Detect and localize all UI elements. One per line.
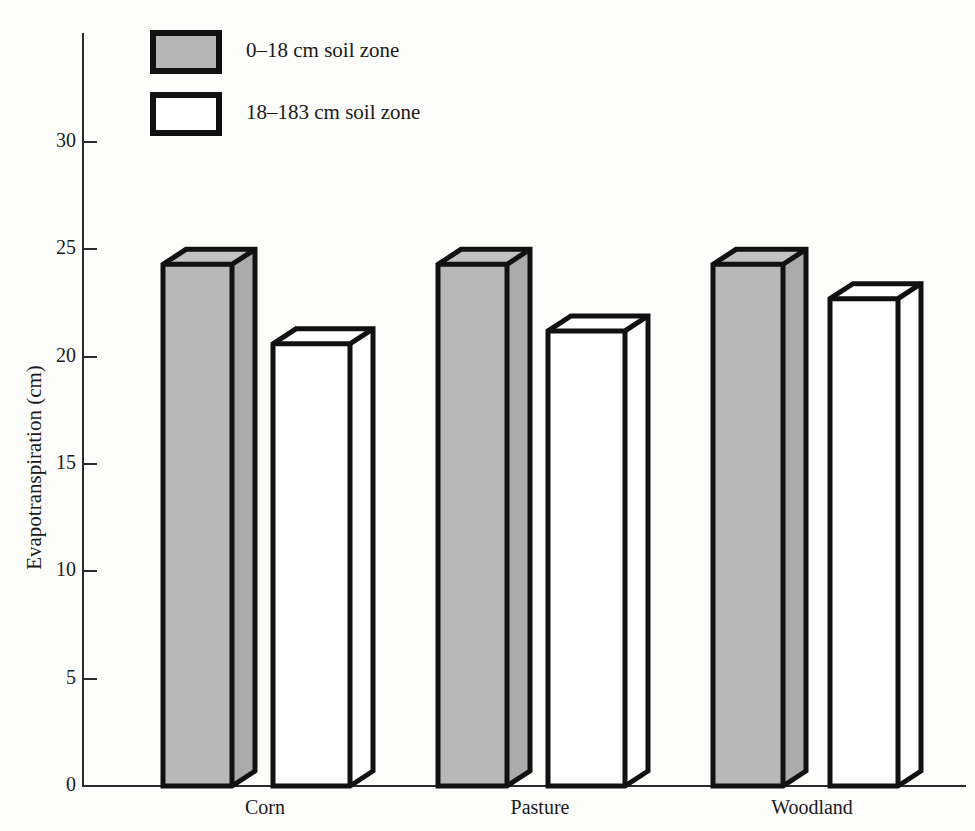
legend-swatch-white xyxy=(150,92,222,136)
bar-corn-zone-0-18[interactable] xyxy=(163,249,255,786)
y-tick-label-5: 5 xyxy=(26,667,76,687)
y-tick-label-text: 30 xyxy=(36,130,76,150)
y-tick-mark-5 xyxy=(84,678,97,680)
y-tick-label-text: 0 xyxy=(36,774,76,794)
y-tick-mark-20 xyxy=(84,356,97,358)
x-category-label-corn: Corn xyxy=(175,796,355,819)
bars-layer xyxy=(0,0,975,831)
bar-pasture-zone-0-18[interactable] xyxy=(438,249,530,786)
y-tick-mark-30 xyxy=(84,141,97,143)
y-tick-label-0: 0 xyxy=(26,774,76,794)
y-axis-line xyxy=(82,33,84,787)
bar-corn-zone-18-183[interactable] xyxy=(273,329,373,786)
y-tick-label-text: 10 xyxy=(36,559,76,579)
y-tick-label-text: 5 xyxy=(36,667,76,687)
y-tick-mark-0 xyxy=(84,785,97,787)
y-tick-mark-10 xyxy=(84,570,97,572)
y-tick-label-text: 15 xyxy=(36,452,76,472)
y-tick-label-25: 25 xyxy=(26,237,76,257)
y-tick-label-20: 20 xyxy=(26,345,76,365)
y-tick-label-30: 30 xyxy=(26,130,76,150)
evapotranspiration-bar-chart: 0–18 cm soil zone 18–183 cm soil zone Ev… xyxy=(0,0,975,831)
y-tick-mark-25 xyxy=(84,248,97,250)
bar-pasture-zone-18-183[interactable] xyxy=(548,316,648,786)
legend-swatch-gray xyxy=(150,30,222,74)
y-tick-label-text: 25 xyxy=(36,237,76,257)
legend-label-18-183: 18–183 cm soil zone xyxy=(246,100,420,125)
y-tick-label-text: 20 xyxy=(36,345,76,365)
y-tick-label-15: 15 xyxy=(26,452,76,472)
bar-woodland-zone-0-18[interactable] xyxy=(713,249,806,786)
x-category-label-pasture: Pasture xyxy=(450,796,630,819)
y-tick-mark-15 xyxy=(84,463,97,465)
bar-woodland-zone-18-183[interactable] xyxy=(830,284,921,786)
legend-label-0-18: 0–18 cm soil zone xyxy=(246,38,399,63)
x-category-label-woodland: Woodland xyxy=(722,796,902,819)
y-tick-label-10: 10 xyxy=(26,559,76,579)
